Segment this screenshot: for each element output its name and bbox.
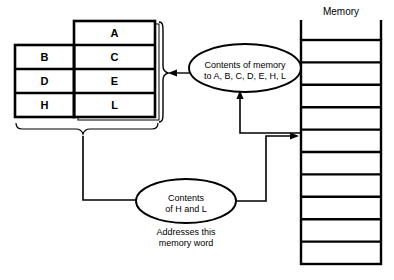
register-cell-c: C	[74, 51, 155, 64]
contents-of-hl-line-2: of H and L	[136, 204, 236, 215]
contents-of-hl-line-1: Contents	[136, 193, 236, 204]
contents-of-memory-line-2: to A, B, C, D, E, H, L	[189, 71, 301, 82]
memory-to-bubble-path	[237, 90, 305, 133]
diagram-canvas: A C E L B D H Memory Contents of memory …	[0, 0, 394, 280]
register-cell-l: L	[74, 99, 155, 112]
memory-title-label: Memory	[301, 6, 381, 18]
register-bottom-brace	[16, 123, 158, 134]
address-to-memory-path	[235, 133, 299, 202]
caption-line-1: Addresses this	[126, 227, 246, 239]
register-cell-e: E	[74, 75, 155, 88]
register-right-brace	[159, 22, 168, 122]
memory-column-graphics	[301, 20, 381, 264]
register-cell-h: H	[15, 99, 74, 112]
contents-of-memory-line-1: Contents of memory	[189, 60, 301, 71]
register-cell-b: B	[15, 51, 74, 64]
register-cell-a: A	[74, 27, 155, 40]
caption-line-2: memory word	[126, 238, 246, 250]
memory-to-registers-arrow	[168, 70, 191, 77]
register-cell-d: D	[15, 75, 74, 88]
